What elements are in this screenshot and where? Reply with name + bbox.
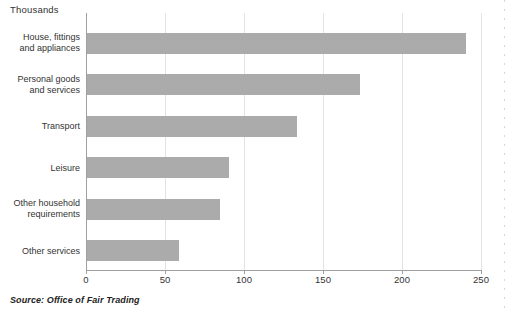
bar bbox=[87, 74, 360, 95]
category-label: House, fittings and appliances bbox=[0, 32, 80, 54]
x-tick-label: 50 bbox=[160, 274, 171, 285]
category-labels: House, fittings and appliancesPersonal g… bbox=[0, 13, 80, 270]
x-tick-label: 100 bbox=[236, 274, 252, 285]
bar bbox=[87, 240, 179, 261]
gridline bbox=[481, 13, 482, 270]
bar-chart: House, fittings and appliancesPersonal g… bbox=[0, 0, 506, 309]
source-note: Source: Office of Fair Trading bbox=[10, 295, 140, 305]
category-label: Transport bbox=[0, 121, 80, 132]
bar bbox=[87, 199, 220, 220]
x-axis-tick-labels: 050100150200250 bbox=[86, 274, 481, 286]
chart-page: Thousands House, fittings and appliances… bbox=[0, 0, 506, 309]
x-tick-label: 0 bbox=[83, 274, 88, 285]
page-edge-dots-artifact bbox=[504, 0, 505, 309]
plot-area bbox=[86, 13, 482, 271]
x-tick-label: 250 bbox=[473, 274, 489, 285]
category-label: Personal goods and services bbox=[0, 74, 80, 96]
category-label: Leisure bbox=[0, 162, 80, 173]
x-tick-label: 200 bbox=[394, 274, 410, 285]
x-tick-label: 150 bbox=[315, 274, 331, 285]
bar bbox=[87, 157, 229, 178]
bar bbox=[87, 116, 297, 137]
bar bbox=[87, 33, 466, 54]
category-label: Other household requirements bbox=[0, 198, 80, 220]
category-label: Other services bbox=[0, 245, 80, 256]
